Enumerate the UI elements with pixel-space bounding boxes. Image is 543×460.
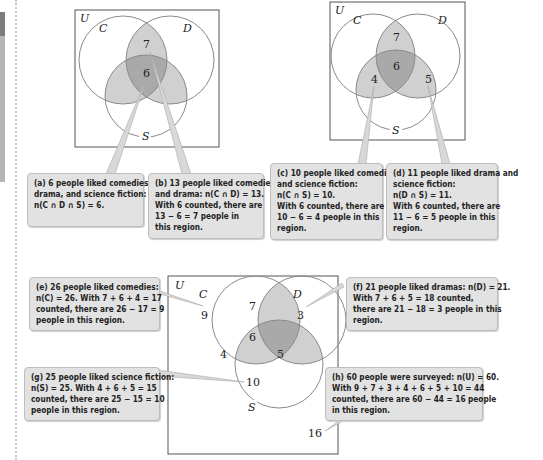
svg-text:7: 7 xyxy=(143,38,150,51)
svg-text:6: 6 xyxy=(143,67,150,80)
callout-g: (g) 25 people liked science fiction: n(S… xyxy=(24,367,160,421)
svg-text:S: S xyxy=(248,401,256,414)
callout-e: (e) 26 people liked comedies: n(C) = 26.… xyxy=(29,277,160,331)
svg-text:6: 6 xyxy=(249,331,256,344)
callout-c: (c) 10 people liked comedies and science… xyxy=(270,163,383,240)
svg-text:5: 5 xyxy=(425,73,432,86)
venn-top-right: U C D S 7 6 4 5 xyxy=(330,2,465,164)
svg-text:D: D xyxy=(437,14,447,27)
callout-a: (a) 6 people liked comedies, drama, and … xyxy=(27,173,144,227)
callout-d: (d) 11 people liked drama and science fi… xyxy=(386,163,498,240)
callout-b: (b) 13 people liked comedies and drama: … xyxy=(148,173,264,239)
svg-text:S: S xyxy=(142,130,150,143)
svg-text:D: D xyxy=(182,22,192,35)
svg-text:S: S xyxy=(392,124,400,137)
svg-text:C: C xyxy=(353,14,362,27)
svg-text:7: 7 xyxy=(249,300,256,313)
svg-text:C: C xyxy=(199,288,208,301)
svg-text:D: D xyxy=(292,288,302,301)
venn-bottom: U C D S 9 3 7 6 4 5 10 16 xyxy=(157,276,352,454)
svg-text:U: U xyxy=(335,4,345,17)
svg-text:4: 4 xyxy=(220,348,227,361)
svg-text:3: 3 xyxy=(297,309,304,322)
svg-text:U: U xyxy=(80,12,90,25)
svg-text:7: 7 xyxy=(393,31,400,44)
callout-f: (f) 21 people liked dramas: n(D) = 21. W… xyxy=(346,277,498,331)
svg-text:16: 16 xyxy=(308,427,322,440)
svg-text:U: U xyxy=(175,279,185,292)
svg-text:10: 10 xyxy=(246,376,260,389)
venn-top-left: U C D S 7 6 xyxy=(75,10,219,174)
svg-text:C: C xyxy=(99,22,108,35)
svg-text:6: 6 xyxy=(393,60,400,73)
callout-h: (h) 60 people were surveyed: n(U) = 60. … xyxy=(325,367,483,421)
svg-text:4: 4 xyxy=(371,73,378,86)
svg-text:9: 9 xyxy=(201,309,208,322)
svg-text:5: 5 xyxy=(277,348,284,361)
